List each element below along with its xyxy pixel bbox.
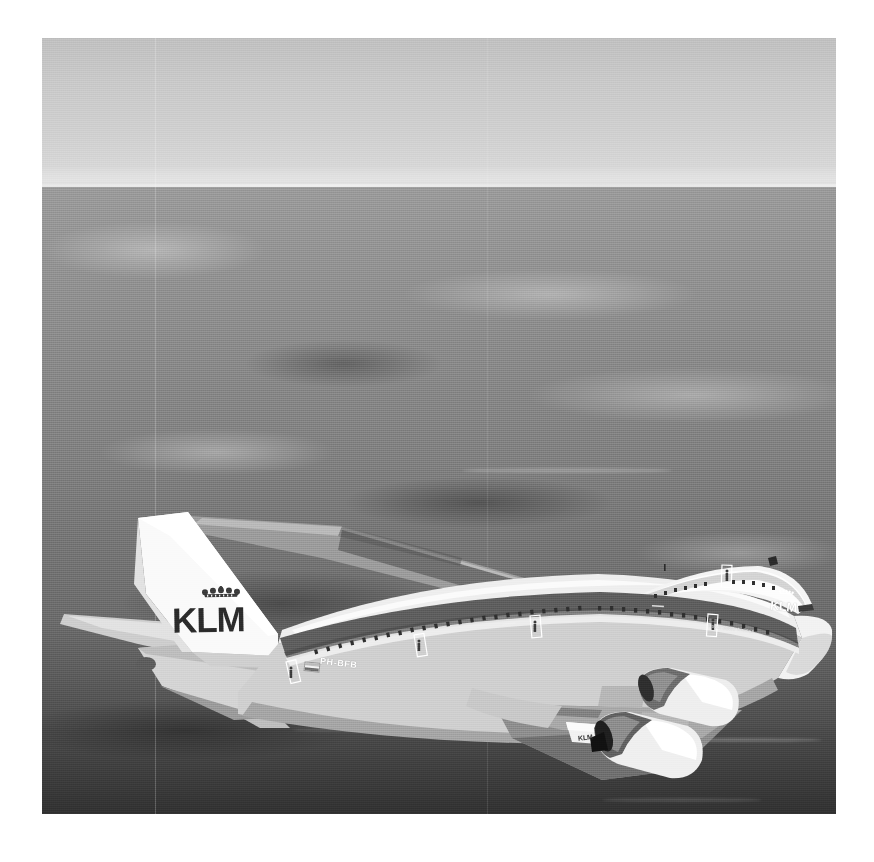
screenshot-root: KLM KLM PH-BFB Royal Dutch Airlines KLM (0, 0, 874, 862)
crown-icon-nose (778, 588, 796, 596)
photograph: KLM KLM PH-BFB Royal Dutch Airlines KLM (42, 38, 836, 814)
aircraft: KLM KLM PH-BFB Royal Dutch Airlines KLM (42, 38, 836, 814)
netherlands-flag-icon (303, 661, 320, 673)
nose-klm-logo: KLM (769, 598, 797, 615)
tail-klm-logo: KLM (172, 599, 245, 640)
